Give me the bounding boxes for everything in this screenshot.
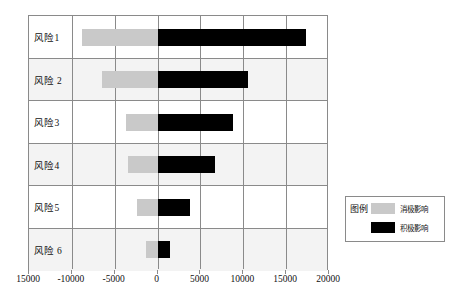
chart-legend: 图例 消极影响 图例 积极影响 (345, 196, 445, 242)
gridline (200, 16, 201, 269)
legend-swatch-negative (371, 203, 395, 214)
category-label: 风险5 (34, 200, 59, 214)
bar-negative (137, 199, 158, 216)
category-label: 风险 2 (34, 73, 62, 87)
x-axis: 15000-10000-500005000100001500020000 (28, 270, 328, 298)
chart-canvas: 风险1风险 2风险3风险4风险5风险 6 15000-10000-5000050… (0, 0, 453, 308)
bar-positive (158, 199, 191, 216)
category-label: 风险 6 (34, 243, 62, 257)
gridline (158, 16, 159, 269)
bar-positive (158, 156, 215, 173)
gridline (243, 16, 244, 269)
x-tick-label: 10000 (230, 274, 254, 284)
bar-positive (158, 114, 233, 131)
gridline (72, 16, 73, 269)
x-tick-label: 20000 (316, 274, 340, 284)
legend-title: 图例 (350, 202, 368, 215)
bar-positive (158, 241, 171, 258)
bar-positive (158, 71, 248, 88)
bar-negative (82, 29, 157, 46)
x-tick-label: 15000 (273, 274, 297, 284)
legend-label-positive: 积极影响 (400, 222, 428, 233)
gridline (115, 16, 116, 269)
bar-negative (102, 71, 158, 88)
bar-negative (146, 241, 157, 258)
legend-label-negative: 消极影响 (400, 203, 428, 214)
legend-swatch-positive (371, 222, 395, 233)
bar-positive (158, 29, 306, 46)
category-label: 风险1 (34, 30, 59, 44)
legend-entry-negative: 图例 消极影响 (350, 202, 441, 215)
category-band (29, 229, 327, 272)
x-tick-label: -5000 (103, 274, 125, 284)
category-label: 风险3 (34, 115, 59, 129)
x-tick-label: -10000 (57, 274, 84, 284)
gridline (286, 16, 287, 269)
x-tick-label: 0 (154, 274, 159, 284)
legend-entry-positive: 图例 积极影响 (350, 221, 441, 234)
x-tick-label: 15000 (16, 274, 40, 284)
x-tick-label: 5000 (190, 274, 209, 284)
bar-negative (126, 114, 158, 131)
bar-negative (128, 156, 158, 173)
category-label: 风险4 (34, 158, 59, 172)
plot-area (28, 15, 328, 270)
